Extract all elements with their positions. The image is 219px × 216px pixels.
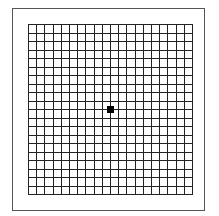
center-fixation-dot bbox=[107, 106, 114, 113]
